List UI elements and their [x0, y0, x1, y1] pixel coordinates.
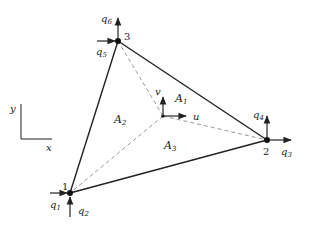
q1-label: q1 [50, 199, 61, 212]
q2-label: q2 [78, 205, 89, 218]
q5-label: q5 [96, 46, 107, 59]
v-label: v [155, 86, 161, 97]
triangle-edges [70, 41, 267, 193]
axes-icon: y x [9, 103, 52, 153]
node-2-label: 2 [263, 146, 269, 157]
node-3-label: 3 [124, 31, 130, 42]
q3-label: q3 [281, 146, 292, 159]
interior-point [161, 114, 165, 118]
node-1-label: 1 [62, 181, 68, 192]
node-3 [115, 38, 121, 44]
node-2 [264, 137, 270, 143]
q6-label: q6 [101, 13, 112, 26]
area-a3-label: A3 [163, 139, 177, 153]
u-label: u [193, 111, 199, 122]
area-a1-label: A1 [174, 92, 187, 106]
triangle-element-diagram: y x 1 2 3 q6 q5 q4 q3 q1 q2 v u A1 A2 A3 [0, 0, 309, 232]
q4-label: q4 [253, 109, 264, 122]
area-a2-label: A2 [113, 113, 127, 127]
y-axis-label: y [9, 103, 16, 114]
area-subdivision-lines [70, 41, 267, 193]
x-axis-label: x [46, 142, 52, 153]
